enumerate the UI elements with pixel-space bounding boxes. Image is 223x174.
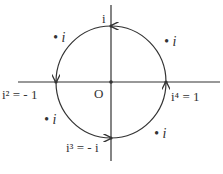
- label-i-squared: i² = - 1: [2, 87, 37, 102]
- multiplier-label-top-left: • i: [53, 30, 65, 45]
- label-i-fourth: i⁴ = 1: [171, 89, 199, 104]
- multiplier-label-top-right: • i: [164, 34, 176, 49]
- point-1: [164, 80, 167, 83]
- label-i-cubed: i³ = - i: [66, 140, 99, 155]
- origin-point: [109, 80, 113, 84]
- multiplier-label-bottom-left: • i: [44, 112, 56, 127]
- multiplier-label-bottom-right: • i: [154, 126, 166, 141]
- origin-label: O: [94, 86, 103, 101]
- point-minus-1: [54, 80, 57, 83]
- point-minus-i: [109, 136, 112, 139]
- arc-1-to-i: [111, 26, 166, 82]
- label-i: i: [102, 11, 106, 26]
- complex-plane-diagram: i i² = - 1 i³ = - i i⁴ = 1 O • i • i • i…: [0, 0, 223, 174]
- point-i: [109, 24, 112, 27]
